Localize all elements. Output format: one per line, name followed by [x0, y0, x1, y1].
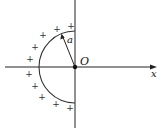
plus-charge-icon: + — [26, 54, 34, 64]
plus-charge-icon: + — [53, 24, 61, 34]
origin-point — [73, 65, 77, 69]
plus-charge-icon: + — [38, 92, 46, 102]
diagram-canvas: O x a ++++++++++ — [0, 0, 164, 128]
plus-charge-icon: + — [25, 69, 33, 79]
plus-charge-icon: + — [52, 99, 60, 109]
plus-charge-icon: + — [67, 21, 75, 31]
origin-label: O — [80, 55, 89, 68]
plus-charge-icon: + — [39, 30, 47, 40]
plus-charge-icon: + — [31, 42, 39, 52]
radius-label: a — [67, 34, 73, 45]
plus-charge-icon: + — [66, 103, 74, 113]
plus-charge-icon: + — [31, 81, 39, 91]
x-axis-label: x — [151, 68, 157, 79]
